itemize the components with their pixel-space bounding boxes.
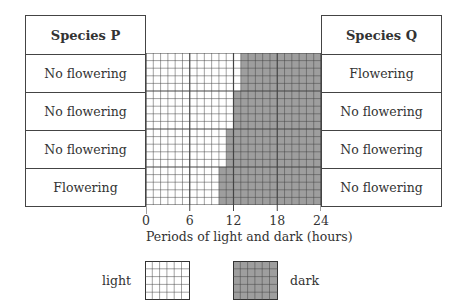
- legend-dark-swatch: [233, 261, 278, 300]
- legend-light-label: light: [102, 273, 131, 288]
- species-p-row-4: Flowering: [26, 168, 145, 206]
- species-p-row-3: No flowering: [26, 130, 145, 168]
- legend-dark-label: dark: [290, 273, 319, 288]
- species-p-header: Species P: [26, 16, 145, 54]
- tick-24: 24: [313, 213, 329, 228]
- species-p-table: Species P No flowering No flowering No f…: [25, 15, 146, 207]
- tick-18: 18: [269, 213, 285, 228]
- legend-light-swatch: [145, 261, 190, 300]
- species-q-table: Species Q Flowering No flowering No flow…: [321, 15, 442, 207]
- light-dark-grid: [146, 53, 321, 205]
- species-q-row-4: No flowering: [322, 168, 441, 206]
- species-p-row-2: No flowering: [26, 92, 145, 130]
- species-q-row-3: No flowering: [322, 130, 441, 168]
- tick-0: 0: [142, 213, 150, 228]
- species-q-row-1: Flowering: [322, 54, 441, 92]
- dark-period-bar: [241, 53, 321, 91]
- x-axis-title: Periods of light and dark (hours): [146, 229, 321, 244]
- tick-6: 6: [186, 213, 194, 228]
- species-q-row-2: No flowering: [322, 92, 441, 130]
- species-p-row-1: No flowering: [26, 54, 145, 92]
- species-q-header: Species Q: [322, 16, 441, 54]
- dark-period-bar: [226, 129, 321, 167]
- tick-12: 12: [226, 213, 242, 228]
